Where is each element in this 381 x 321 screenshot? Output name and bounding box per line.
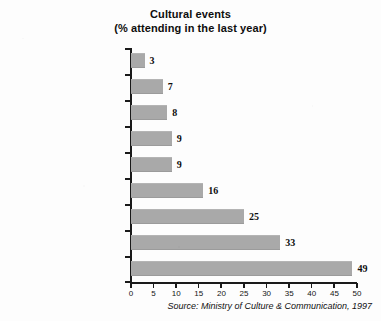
y-axis-tick xyxy=(125,178,131,180)
bar-row: Museum33 xyxy=(130,230,356,256)
y-axis-tick xyxy=(125,256,131,258)
y-axis-tick xyxy=(125,74,131,76)
x-axis-tick xyxy=(311,283,313,288)
bar-value-label: 33 xyxy=(285,235,295,250)
x-axis-tick xyxy=(288,283,290,288)
x-axis-tick xyxy=(153,283,155,288)
y-axis-tick xyxy=(125,126,131,128)
y-axis-tick xyxy=(125,48,131,50)
bar xyxy=(131,157,172,172)
x-axis-tick xyxy=(356,283,358,288)
x-axis-tick-label: 50 xyxy=(347,289,367,298)
x-axis-tick-label: 15 xyxy=(189,289,209,298)
bar xyxy=(131,53,145,68)
chart-page: Cultural events (% attending in the last… xyxy=(0,0,381,321)
bar-row: Theatre16 xyxy=(130,178,356,204)
bar xyxy=(131,183,203,198)
bar-value-label: 25 xyxy=(249,209,259,224)
bar-row: Art exhibition25 xyxy=(130,204,356,230)
bar-row: Jazz concert7 xyxy=(130,74,356,100)
x-axis-tick xyxy=(220,283,222,288)
x-axis-tick xyxy=(333,283,335,288)
bar-row: Dance performance8 xyxy=(130,100,356,126)
bar xyxy=(131,131,172,146)
chart-subtitle: (% attending in the last year) xyxy=(0,21,381,35)
x-axis-tick xyxy=(130,283,132,288)
chart-title-block: Cultural events (% attending in the last… xyxy=(0,7,381,35)
y-axis-tick xyxy=(125,100,131,102)
bar-row: Rock music concert9 xyxy=(130,126,356,152)
bar-value-label: 9 xyxy=(177,157,182,172)
x-axis-tick-label: 10 xyxy=(166,289,186,298)
bar xyxy=(131,105,167,120)
bar xyxy=(131,79,163,94)
x-axis-tick-label: 40 xyxy=(302,289,322,298)
x-axis-tick-label: 35 xyxy=(279,289,299,298)
x-axis-tick xyxy=(198,283,200,288)
x-axis-tick xyxy=(266,283,268,288)
plot-area: Opera3Jazz concert7Dance performance8Roc… xyxy=(130,48,356,282)
source-note: Source: Ministry of Culture & Communicat… xyxy=(0,301,372,311)
bar-row: Classical music concert9 xyxy=(130,152,356,178)
x-axis-tick-label: 25 xyxy=(234,289,254,298)
x-axis-tick-label: 0 xyxy=(121,289,141,298)
y-axis-tick xyxy=(125,204,131,206)
y-axis-tick xyxy=(125,230,131,232)
bar xyxy=(131,209,244,224)
x-axis-tick xyxy=(175,283,177,288)
bar-value-label: 9 xyxy=(177,131,182,146)
bar-value-label: 7 xyxy=(168,79,173,94)
bar-value-label: 49 xyxy=(357,261,367,276)
bar-row: Cinema49 xyxy=(130,256,356,282)
x-axis-tick xyxy=(243,283,245,288)
y-axis-tick xyxy=(125,152,131,154)
bar xyxy=(131,261,352,276)
bar-row: Opera3 xyxy=(130,48,356,74)
x-axis-tick-label: 30 xyxy=(257,289,277,298)
bar-value-label: 8 xyxy=(172,105,177,120)
bar-value-label: 16 xyxy=(208,183,218,198)
x-axis-tick-label: 45 xyxy=(324,289,344,298)
bar xyxy=(131,235,280,250)
page-title: Cultural events xyxy=(0,7,381,21)
x-axis-tick-label: 5 xyxy=(144,289,164,298)
bar-value-label: 3 xyxy=(150,53,155,68)
x-axis-tick-label: 20 xyxy=(211,289,231,298)
